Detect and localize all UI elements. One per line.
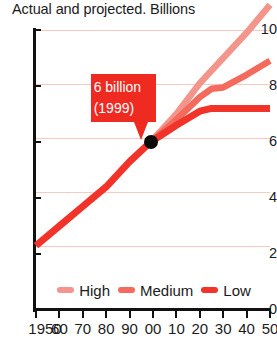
legend-label-medium: Medium <box>140 283 193 298</box>
annotation-data-point-marker <box>144 135 158 149</box>
legend-label-low: Low <box>223 283 251 298</box>
annotation-callout-box: 6 billion (1999) <box>91 74 156 122</box>
legend-swatch-medium-icon <box>118 287 135 293</box>
legend-swatch-low-icon <box>201 287 218 293</box>
series-line-actual <box>36 142 151 246</box>
chart-legend: HighMediumLow <box>36 279 272 301</box>
legend-label-high: High <box>79 283 110 298</box>
legend-item-medium[interactable]: Medium <box>118 283 193 298</box>
legend-swatch-high-icon <box>57 287 74 293</box>
population-projection-chart: Actual and projected. Billions 1086420 1… <box>0 0 277 343</box>
legend-item-high[interactable]: High <box>57 283 110 298</box>
legend-item-low[interactable]: Low <box>201 283 251 298</box>
annotation-callout-text: 6 billion (1999) <box>94 77 156 118</box>
